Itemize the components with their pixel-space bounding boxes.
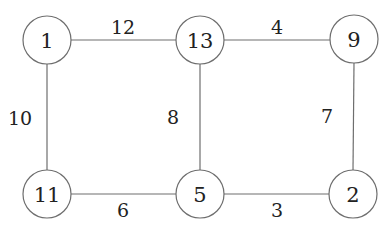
edge-weight-11-5: 6 [117,199,129,221]
node-label: 5 [193,183,206,207]
graph-diagram: 12 4 10 8 7 6 3 1 13 9 11 [0,0,391,231]
node-label: 1 [40,29,53,53]
node-label: 11 [34,183,61,207]
node-2: 2 [329,170,377,218]
edge-weight-13-9: 4 [271,16,283,38]
node-label: 13 [187,29,214,53]
node-13: 13 [176,16,224,64]
node-5: 5 [176,170,224,218]
edge-weight-5-2: 3 [271,199,283,221]
edge-weight-13-5: 8 [167,106,179,128]
edge-weight-1-11: 10 [8,107,32,129]
graph-svg: 12 4 10 8 7 6 3 1 13 9 11 [0,0,391,231]
node-11: 11 [23,170,71,218]
edge-weight-9-2: 7 [321,105,333,127]
edge-weight-1-13: 12 [111,16,135,38]
node-9: 9 [330,15,378,63]
node-1: 1 [23,16,71,64]
node-label: 2 [346,183,359,207]
node-label: 9 [347,28,360,52]
edge-9-2 [353,63,354,170]
